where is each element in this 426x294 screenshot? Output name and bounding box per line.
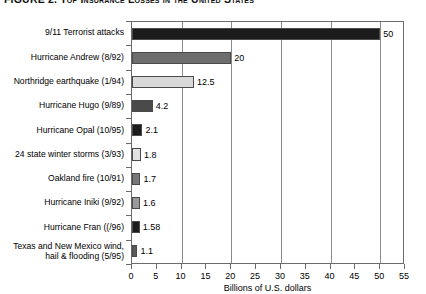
x-axis-tick-label: 10 (176, 271, 186, 281)
bar-value-label: 2.1 (142, 125, 158, 135)
category-label: Hurricane Hugo (9/89) (0, 94, 128, 118)
category-label: 24 state winter storms (3/93) (0, 142, 128, 166)
bar (132, 100, 153, 112)
x-axis-tick (305, 264, 306, 269)
x-axis-tick (255, 264, 256, 269)
x-axis-tick-label: 15 (200, 271, 210, 281)
x-axis-title: Billions of U.S. dollars (131, 283, 404, 293)
x-axis-tick (330, 264, 331, 269)
bar-value-label: 20 (231, 53, 244, 63)
bar-row: 12.5 (132, 70, 403, 94)
bar (132, 221, 140, 233)
category-label: Hurricane Opal (10/95) (0, 118, 128, 142)
bar-value-label: 1.8 (141, 150, 157, 160)
x-axis-tick (205, 264, 206, 269)
x-axis-tick (181, 264, 182, 269)
bar-value-label: 1.58 (140, 222, 161, 232)
x-axis-tick (131, 264, 132, 269)
bar-row: 1.8 (132, 142, 403, 166)
bar-row: 4.2 (132, 94, 403, 118)
plot-area: 502012.54.22.11.81.71.61.581.1 (131, 21, 404, 264)
bar-rows: 502012.54.22.11.81.71.61.581.1 (132, 22, 403, 263)
x-axis-tick-label: 55 (399, 271, 409, 281)
category-label: Texas and New Mexico wind, hail & floodi… (0, 240, 128, 264)
x-axis-tick (354, 264, 355, 269)
x-axis-tick (230, 264, 231, 269)
bar-value-label: 4.2 (153, 101, 169, 111)
category-label: Northridge earthquake (1/94) (0, 70, 128, 94)
category-label: Hurricane Fran ((/96) (0, 215, 128, 239)
x-axis-tick (404, 264, 405, 269)
bar (132, 52, 231, 64)
x-axis-tick-label: 45 (349, 271, 359, 281)
x-axis-tick (379, 264, 380, 269)
bar (132, 124, 142, 136)
x-axis-tick-label: 40 (325, 271, 335, 281)
x-axis-tick-label: 30 (275, 271, 285, 281)
bar-value-label: 1.1 (137, 246, 153, 256)
bar (132, 197, 140, 209)
category-label: 9/11 Terrorist attacks (0, 21, 128, 45)
bar-value-label: 50 (380, 29, 393, 39)
bar (132, 28, 380, 40)
category-label: Hurricane Iniki (9/92) (0, 191, 128, 215)
x-axis-tick (280, 264, 281, 269)
bar-row: 2.1 (132, 118, 403, 142)
bar-row: 50 (132, 22, 403, 46)
bar (132, 173, 140, 185)
bar (132, 76, 194, 88)
category-label: Hurricane Andrew (8/92) (0, 45, 128, 69)
bar-row: 20 (132, 46, 403, 70)
bar-value-label: 1.7 (140, 174, 156, 184)
bar (132, 148, 141, 160)
figure-container: FIGURE 2. Top Insurance Losses in the Un… (0, 0, 426, 294)
bar-value-label: 12.5 (194, 77, 215, 87)
category-label: Oakland fire (10/91) (0, 167, 128, 191)
x-axis-tick-label: 5 (153, 271, 158, 281)
category-axis-labels: 9/11 Terrorist attacks Hurricane Andrew … (0, 21, 128, 264)
bar-value-label: 1.6 (140, 198, 156, 208)
bar-row: 1.58 (132, 215, 403, 239)
x-axis-tick-label: 25 (250, 271, 260, 281)
figure-title: FIGURE 2. Top Insurance Losses in the Un… (4, 0, 422, 7)
bar-row: 1.6 (132, 191, 403, 215)
x-axis-tick-label: 0 (128, 271, 133, 281)
x-axis-tick (156, 264, 157, 269)
bar-row: 1.1 (132, 239, 403, 263)
x-axis-tick-label: 20 (225, 271, 235, 281)
bar-row: 1.7 (132, 167, 403, 191)
x-axis-tick-label: 50 (374, 271, 384, 281)
x-axis-tick-label: 35 (300, 271, 310, 281)
